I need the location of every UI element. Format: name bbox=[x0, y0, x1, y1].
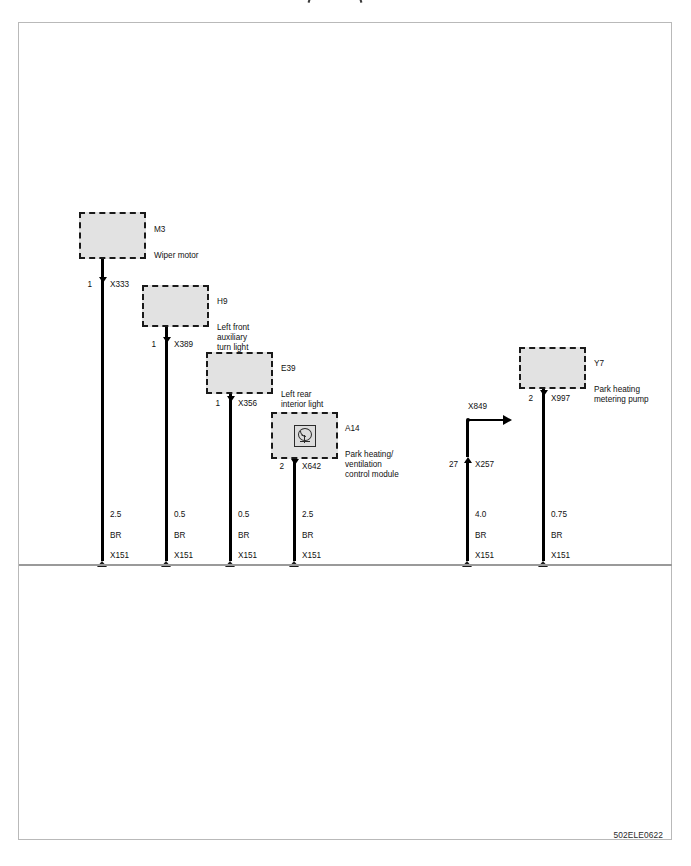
fan-icon-base bbox=[300, 441, 310, 442]
connector-id-x257: X257 bbox=[475, 460, 494, 470]
diagram-footer-code: 502ELE0622 bbox=[614, 830, 663, 840]
wire-spec-branch: 4.0 BR bbox=[475, 500, 486, 541]
wire-branch-upper bbox=[466, 420, 469, 457]
component-box-e39[interactable] bbox=[206, 352, 273, 394]
wiring-diagram-canvas: M3 Wiper motor 1 X333 2.5 BR X151 H9 Lef… bbox=[0, 0, 691, 866]
ground-id-h9: X151 bbox=[174, 551, 193, 561]
component-desc-y7: Park heating metering pump bbox=[594, 385, 689, 405]
branch-arrow-line bbox=[468, 419, 505, 421]
component-box-m3[interactable] bbox=[79, 212, 146, 259]
component-desc-e39: Left rear interior light bbox=[281, 390, 371, 410]
component-box-a14[interactable] bbox=[271, 412, 338, 459]
wire-color-y7: BR bbox=[551, 531, 562, 540]
component-desc-m3: Wiper motor bbox=[154, 251, 244, 261]
wire-color-a14: BR bbox=[302, 531, 313, 540]
component-label-e39: E39 Left rear interior light bbox=[281, 354, 371, 420]
component-code-m3: M3 bbox=[154, 225, 244, 235]
wire-size-h9: 0.5 bbox=[174, 510, 185, 519]
wire-color-e39: BR bbox=[238, 531, 249, 540]
component-box-h9[interactable] bbox=[142, 285, 209, 327]
component-desc-a14: Park heating/ ventilation control module bbox=[345, 450, 440, 481]
connector-id-x642: X642 bbox=[302, 462, 321, 472]
wire-y7 bbox=[542, 389, 545, 561]
component-code-y7: Y7 bbox=[594, 359, 689, 369]
wire-size-branch: 4.0 bbox=[475, 510, 486, 519]
ground-id-y7: X151 bbox=[551, 551, 570, 561]
wire-spec-m3: 2.5 BR bbox=[110, 500, 121, 541]
connector-id-x356: X356 bbox=[238, 399, 257, 409]
wire-e39 bbox=[229, 394, 232, 561]
wire-color-branch: BR bbox=[475, 531, 486, 540]
wire-a14 bbox=[293, 459, 296, 561]
wire-spec-e39: 0.5 BR bbox=[238, 500, 249, 541]
connector-id-x389: X389 bbox=[174, 340, 193, 350]
component-code-a14: A14 bbox=[345, 424, 440, 434]
wire-m3 bbox=[101, 259, 104, 561]
ground-bus-line bbox=[19, 564, 672, 566]
pin-number-m3: 1 bbox=[78, 280, 92, 290]
component-label-m3: M3 Wiper motor bbox=[154, 215, 244, 271]
wire-size-m3: 2.5 bbox=[110, 510, 121, 519]
pin-number-a14: 2 bbox=[270, 462, 284, 472]
pin-number-y7: 2 bbox=[519, 394, 533, 404]
pin-number-h9: 1 bbox=[142, 340, 156, 350]
component-code-e39: E39 bbox=[281, 364, 371, 374]
wire-spec-y7: 0.75 BR bbox=[551, 500, 567, 541]
ground-id-m3: X151 bbox=[110, 551, 129, 561]
ground-id-a14: X151 bbox=[302, 551, 321, 561]
fan-icon bbox=[294, 425, 316, 447]
wire-size-a14: 2.5 bbox=[302, 510, 313, 519]
ground-id-e39: X151 bbox=[238, 551, 257, 561]
wire-spec-h9: 0.5 BR bbox=[174, 500, 185, 541]
wire-branch-lower bbox=[466, 463, 469, 561]
pin-number-x257: 27 bbox=[440, 460, 458, 470]
branch-label-x849: X849 bbox=[468, 402, 487, 412]
component-label-y7: Y7 Park heating metering pump bbox=[594, 349, 689, 415]
wire-color-m3: BR bbox=[110, 531, 121, 540]
component-box-y7[interactable] bbox=[519, 347, 586, 389]
ground-id-branch: X151 bbox=[475, 551, 494, 561]
connector-id-x333: X333 bbox=[110, 280, 129, 290]
component-desc-h9: Left front auxiliary turn light bbox=[217, 323, 307, 354]
component-label-a14: A14 Park heating/ ventilation control mo… bbox=[345, 414, 440, 490]
component-code-h9: H9 bbox=[217, 297, 307, 307]
wire-h9 bbox=[165, 327, 168, 561]
wire-spec-a14: 2.5 BR bbox=[302, 500, 313, 541]
connector-id-x997: X997 bbox=[551, 394, 570, 404]
wire-color-h9: BR bbox=[174, 531, 185, 540]
pin-number-e39: 1 bbox=[206, 399, 220, 409]
wire-size-y7: 0.75 bbox=[551, 510, 567, 519]
branch-arrow-head bbox=[503, 415, 512, 425]
wire-size-e39: 0.5 bbox=[238, 510, 249, 519]
